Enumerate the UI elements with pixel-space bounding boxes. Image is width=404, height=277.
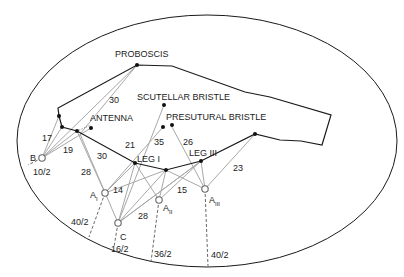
label-presutural-bristle: PRESUTURAL BRISTLE <box>166 113 266 122</box>
point-leg-2 <box>164 168 168 172</box>
length-19: 19 <box>63 146 73 155</box>
ratio-a1: 40/2 <box>71 218 89 227</box>
anchor-a2-subscript: II <box>169 209 172 215</box>
ratio-a2: 36/2 <box>154 250 172 259</box>
anchor-a3-subscript: III <box>215 201 220 207</box>
anchor-a3 <box>202 186 208 192</box>
label-scutellar-bristle: SCUTELLAR BRISTLE <box>137 93 230 102</box>
label-leg-1: LEG I <box>137 155 160 164</box>
length-35: 35 <box>154 138 164 147</box>
point-head-upper <box>57 114 61 118</box>
point-head-lower <box>60 125 64 129</box>
label-antenna: ANTENNA <box>90 114 133 123</box>
fly-leg-diagram <box>0 0 404 277</box>
point-proboscis <box>135 63 139 67</box>
connector-lines <box>42 65 255 223</box>
length-a1-30: 30 <box>97 152 107 161</box>
point-leg-3 <box>199 159 203 163</box>
label-anchor-a1: AI <box>90 191 98 200</box>
anchor-a2 <box>156 197 162 203</box>
anchor-c <box>115 220 121 226</box>
length-26: 26 <box>183 138 193 147</box>
point-presutural-bristle <box>170 123 174 127</box>
length-17: 17 <box>42 134 52 143</box>
label-anchor-a3: AIII <box>209 196 220 205</box>
length-23: 23 <box>233 164 243 173</box>
ratio-c: 16/2 <box>111 245 129 254</box>
point-rear <box>253 132 257 136</box>
label-proboscis: PROBOSCIS <box>115 50 169 59</box>
label-anchor-c: C <box>120 233 127 242</box>
point-mid-bristle <box>161 125 165 129</box>
ratio-a3: 40/2 <box>211 251 229 260</box>
point-antenna-tip <box>89 126 93 130</box>
label-anchor-b: B <box>30 154 36 163</box>
anchor-a1-subscript: I <box>96 196 98 202</box>
length-15: 15 <box>177 186 187 195</box>
label-leg-3: LEG III <box>189 149 217 158</box>
length-proboscis: 30 <box>109 96 119 105</box>
label-anchor-a2: AII <box>163 204 172 213</box>
antenna-dotted-line <box>77 125 91 131</box>
anchor-b <box>39 155 45 161</box>
anchor-a1 <box>102 190 108 196</box>
length-c-28: 28 <box>138 212 148 221</box>
point-scutellar-bristle <box>162 103 166 107</box>
ratio-b: 10/2 <box>33 168 51 177</box>
length-a1-28: 28 <box>81 168 91 177</box>
length-14: 14 <box>113 186 123 195</box>
length-21: 21 <box>125 141 135 150</box>
point-antenna-base <box>75 129 79 133</box>
